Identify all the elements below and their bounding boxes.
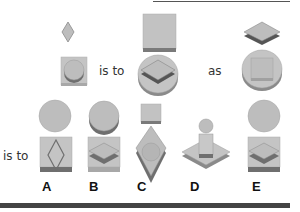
option-e-label[interactable]: E	[252, 179, 261, 194]
square-with-flat-diamond-icon	[248, 137, 280, 172]
bottom-rule	[0, 203, 290, 208]
circle-icon	[248, 100, 280, 132]
